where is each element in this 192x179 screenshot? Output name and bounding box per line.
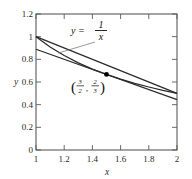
- coordinate-comma: ,: [86, 84, 88, 93]
- x-tick-label: 2: [175, 154, 180, 164]
- y-tick-label: 1.2: [22, 9, 33, 19]
- figure-container: 0 0.2 0.4 0.6 0.8 1 1.2 1 1.2 1.4 1.6 1.…: [0, 0, 192, 179]
- x-axis-label: x: [104, 167, 110, 177]
- y-tick-label: 0: [29, 145, 34, 155]
- x-tick-label: 1: [34, 154, 39, 164]
- y-tick-label: 0.2: [22, 122, 33, 132]
- y-tick-label: 1: [29, 32, 34, 42]
- left-paren: (: [71, 79, 76, 96]
- y-tick-label: 0.8: [22, 54, 34, 64]
- plot-svg: 0 0.2 0.4 0.6 0.8 1 1.2 1 1.2 1.4 1.6 1.…: [0, 0, 192, 179]
- equation-numerator: 1: [99, 19, 104, 30]
- x-tick-label: 1.6: [115, 154, 127, 164]
- y-tick-label: 0.6: [22, 77, 34, 87]
- y-axis-label: y: [13, 77, 19, 87]
- x-tick-label: 1.8: [143, 154, 155, 164]
- data-point-marker: [104, 72, 109, 77]
- right-paren: ): [100, 79, 105, 96]
- x-tick-label: 1.2: [59, 154, 70, 164]
- equation-lhs: y =: [70, 25, 85, 36]
- x-tick-label: 1.4: [87, 154, 99, 164]
- y-tick-label: 0.4: [22, 100, 34, 110]
- equation-denominator: x: [98, 31, 104, 42]
